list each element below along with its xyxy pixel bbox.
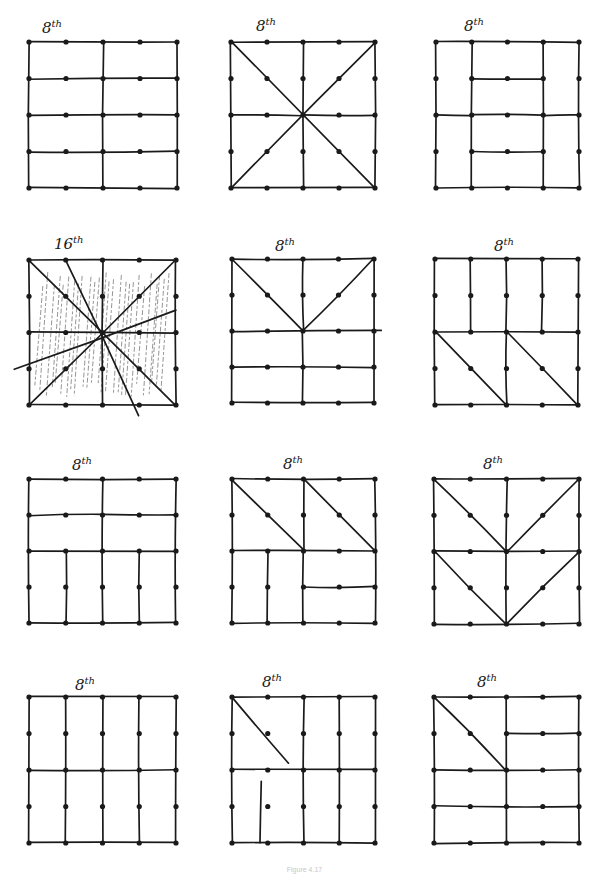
panel-label: 8th [494, 236, 514, 255]
panel-label: 8th [75, 675, 95, 694]
grid-dot [576, 694, 581, 699]
grid-dot [504, 767, 509, 772]
panel-label: 16th [54, 234, 84, 253]
panel-label: 8th [262, 672, 282, 691]
grid-dot [504, 731, 509, 736]
grid-dot [468, 694, 473, 699]
grid-dot [468, 767, 473, 772]
panel-label: 8th [42, 18, 62, 37]
panel-label: 8th [464, 16, 484, 35]
grid-dot [576, 731, 581, 736]
panel-label: 8th [477, 672, 497, 691]
grid-dot [540, 804, 545, 809]
grid-dot [431, 804, 436, 809]
grid-dot [576, 767, 581, 772]
grid-dot [540, 840, 545, 845]
dot-grid-panel [0, 0, 609, 884]
grid-dot [504, 804, 509, 809]
panel-label: 8th [256, 16, 276, 35]
grid-dot [540, 694, 545, 699]
grid-dot [468, 804, 473, 809]
grid-dot [431, 840, 436, 845]
grid-dot [504, 840, 509, 845]
grid-dot [468, 731, 473, 736]
figure-caption: Figure 4.17 [0, 866, 609, 873]
panel-label: 8th [275, 236, 295, 255]
panel-label: 8th [72, 455, 92, 474]
grid-dot [540, 731, 545, 736]
grid-dot [468, 840, 473, 845]
grid-dot [431, 731, 436, 736]
panel-label: 8th [283, 454, 303, 473]
grid-dot [431, 694, 436, 699]
panel-label: 8th [483, 454, 503, 473]
grid-dot [576, 804, 581, 809]
grid-dot [504, 694, 509, 699]
grid-dot [431, 767, 436, 772]
grid-dot [576, 840, 581, 845]
grid-dot [540, 767, 545, 772]
